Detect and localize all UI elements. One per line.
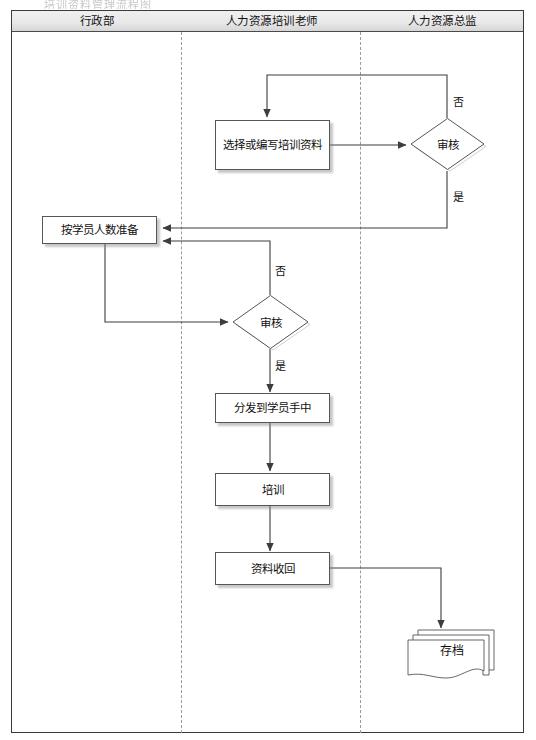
lane-header-trainer: 人力资源培训老师 — [182, 11, 361, 32]
edge-label-trainer-yes: 是 — [275, 357, 286, 373]
page-top-artifact-text: 培训资料管理流程图 — [44, 0, 274, 9]
node-training[interactable]: 培训 — [215, 473, 330, 506]
node-collect-back[interactable]: 资料收回 — [215, 552, 330, 585]
lane-header-row: 行政部 人力资源培训老师 人力资源总监 — [12, 11, 523, 32]
node-label: 按学员人数准备 — [61, 222, 138, 238]
node-review-director[interactable]: 审核 — [409, 117, 486, 171]
node-distribute[interactable]: 分发到学员手中 — [215, 393, 330, 423]
node-label: 分发到学员手中 — [234, 400, 311, 416]
flowchart-page: 培训资料管理流程图 行政部 人力资源培训老师 人力资源总监 — [0, 0, 536, 740]
edge-label-director-yes: 是 — [453, 188, 464, 204]
node-prepare-materials[interactable]: 选择或编写培训资料 — [215, 120, 330, 170]
node-review-trainer[interactable]: 审核 — [231, 294, 310, 350]
edge-label-director-no: 否 — [453, 93, 464, 109]
node-prepare-by-count[interactable]: 按学员人数准备 — [42, 216, 157, 244]
lane-header-director: 人力资源总监 — [361, 11, 523, 32]
node-archive[interactable]: 存档 — [404, 626, 499, 682]
edge-label-trainer-no: 否 — [275, 262, 286, 278]
node-label: 选择或编写培训资料 — [223, 137, 322, 153]
lane-header-admin: 行政部 — [12, 11, 182, 32]
node-label: 资料收回 — [251, 561, 295, 577]
lane-divider-2 — [360, 32, 361, 733]
node-label: 培训 — [262, 482, 284, 498]
lane-divider-1 — [181, 32, 182, 733]
